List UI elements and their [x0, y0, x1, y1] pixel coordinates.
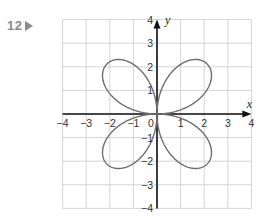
y-tick-label: 4 [147, 14, 153, 26]
y-tick-label: 2 [147, 61, 153, 73]
x-tick-label: 2 [201, 117, 207, 129]
y-tick-label: −2 [141, 155, 153, 167]
x-tick-label: −2 [104, 117, 116, 129]
x-tick-label: 3 [225, 117, 231, 129]
rose-curve-chart: −4−3−2−1012344321−1−2−3−4xy [0, 0, 266, 223]
x-tick-label: −1 [127, 117, 139, 129]
y-tick-label: 3 [147, 37, 153, 49]
x-tick-label: −3 [80, 117, 92, 129]
x-tick-label: 4 [248, 117, 254, 129]
y-tick-label: 1 [147, 84, 153, 96]
y-tick-label: −1 [141, 132, 153, 144]
y-tick-label: −4 [141, 202, 153, 214]
x-tick-label: 0 [148, 117, 154, 129]
x-axis-label: x [246, 97, 253, 111]
y-axis-label: y [164, 13, 171, 27]
x-tick-label: −4 [57, 117, 69, 129]
x-tick-label: 1 [178, 117, 184, 129]
y-tick-label: −3 [141, 179, 153, 191]
